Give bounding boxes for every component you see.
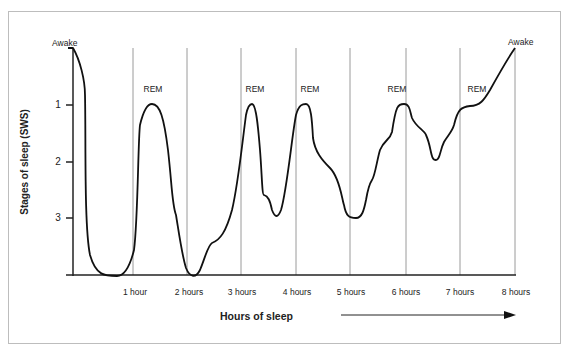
rem-label: REM — [144, 84, 163, 94]
x-tick-label: 1 hour — [123, 287, 147, 297]
y-tick-label: 1 — [55, 99, 61, 110]
time-direction-arrow-icon — [341, 311, 516, 319]
y-tick-label: 3 — [55, 212, 61, 223]
x-tick-label: 8 hours — [502, 287, 530, 297]
rem-label: REM — [246, 84, 265, 94]
rem-label: REM — [468, 84, 487, 94]
x-tick-label: 3 hours — [228, 287, 256, 297]
rem-label: REM — [301, 84, 320, 94]
sleep-stage-curve — [68, 48, 515, 276]
awake-label-left: Awake — [52, 38, 78, 48]
y-axis-title: Stages of sleep (SWS) — [19, 109, 30, 215]
x-tick-label: 5 hours — [337, 287, 365, 297]
awake-label-right: Awake — [508, 37, 534, 47]
x-tick-label: 7 hours — [446, 287, 474, 297]
y-tick-label: 2 — [55, 156, 61, 167]
x-tick-label: 6 hours — [392, 287, 420, 297]
x-tick-label: 2 hours — [175, 287, 203, 297]
y-ticks — [66, 105, 73, 218]
x-tick-label: 4 hours — [283, 287, 311, 297]
sleep-stages-chart: Awake Awake REM REM REM REM REM 1 2 3 St… — [0, 0, 573, 357]
rem-label: REM — [388, 84, 407, 94]
x-axis-title: Hours of sleep — [220, 310, 293, 322]
